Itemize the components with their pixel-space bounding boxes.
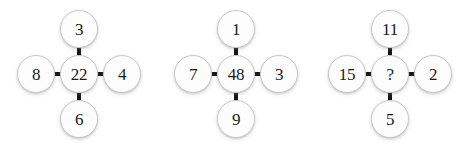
node-center-cluster-3-unknown: ?	[371, 55, 409, 93]
node-bottom-cluster-3: 5	[371, 100, 409, 138]
node-value: 48	[228, 66, 244, 83]
node-value: 2	[429, 66, 437, 83]
node-value: 11	[382, 21, 398, 38]
node-value: 15	[339, 66, 355, 83]
node-bottom-cluster-2: 9	[217, 100, 255, 138]
node-center-cluster-2: 48	[217, 55, 255, 93]
node-value: 5	[386, 111, 394, 128]
node-right-cluster-1: 4	[103, 55, 141, 93]
node-left-cluster-2: 7	[174, 55, 212, 93]
node-top-cluster-3: 11	[371, 10, 409, 48]
node-value: 3	[75, 21, 83, 38]
node-bottom-cluster-1: 6	[60, 100, 98, 138]
node-value: 1	[232, 21, 240, 38]
node-top-cluster-1: 3	[60, 10, 98, 48]
node-value: 6	[75, 111, 83, 128]
number-cluster-3: 11 15 ? 2 5	[311, 0, 469, 148]
node-top-cluster-2: 1	[217, 10, 255, 48]
node-right-cluster-2: 3	[260, 55, 298, 93]
node-center-cluster-1: 22	[60, 55, 98, 93]
number-cluster-1: 3 8 22 4 6	[0, 0, 158, 148]
node-left-cluster-3: 15	[328, 55, 366, 93]
node-value: 22	[71, 66, 87, 83]
node-value: 4	[118, 66, 126, 83]
node-value: 8	[32, 66, 40, 83]
number-cluster-2: 1 7 48 3 9	[157, 0, 315, 148]
node-right-cluster-3: 2	[414, 55, 452, 93]
node-value: 9	[232, 111, 240, 128]
node-value: ?	[386, 66, 393, 83]
node-value: 3	[275, 66, 283, 83]
node-value: 7	[189, 66, 197, 83]
node-left-cluster-1: 8	[17, 55, 55, 93]
number-puzzle-canvas: 3 8 22 4 6 1 7 48 3 9	[0, 0, 472, 148]
